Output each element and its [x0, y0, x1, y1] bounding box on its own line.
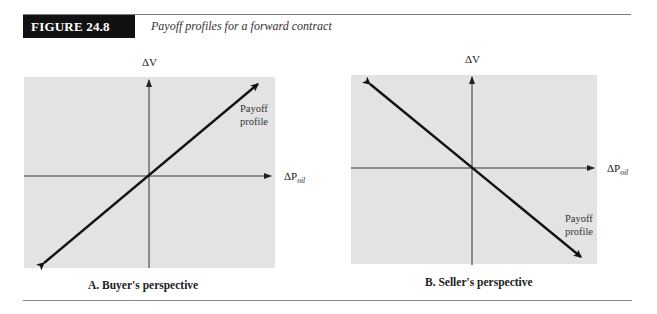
panel-b-payoff-label-line1: Payoff	[565, 213, 593, 224]
bottom-rule	[23, 300, 632, 301]
payoff-diagrams: ΔV ΔPoil Payoff profile ΔV ΔPoil Payoff …	[0, 0, 657, 314]
panel-a-caption: A. Buyer's perspective	[88, 279, 198, 291]
panel-b-payoff-label-line2: profile	[565, 226, 593, 237]
panel-b-y-axis-label: ΔV	[465, 53, 480, 65]
panel-b-seller: ΔV ΔPoil Payoff profile	[351, 53, 628, 265]
panel-a-payoff-label-line2: profile	[240, 116, 268, 127]
panel-b-x-axis-label: ΔPoil	[607, 162, 628, 177]
panel-a-buyer: ΔV ΔPoil Payoff profile	[24, 56, 305, 268]
panel-a-payoff-label-line1: Payoff	[240, 103, 268, 114]
panel-b-caption: B. Seller's perspective	[425, 276, 533, 288]
panel-a-y-axis-label: ΔV	[142, 56, 157, 68]
panel-a-x-axis-label: ΔPoil	[284, 170, 305, 185]
